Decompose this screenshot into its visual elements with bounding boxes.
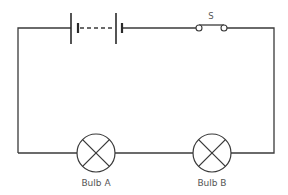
bulb-a: Bulb A [77,134,115,188]
switch-label: S [208,11,213,21]
wire-top-left [18,28,71,153]
battery [71,13,122,44]
bulb-b-label: Bulb B [197,178,226,188]
switch-contact-left [196,25,202,31]
circuit-diagram: S Bulb A Bulb B [0,0,288,195]
wire-switch-to-right [227,28,274,153]
switch: S [196,11,227,31]
bulb-a-label: Bulb A [81,178,111,188]
battery-cell-1 [71,13,78,44]
bulb-b: Bulb B [193,134,231,188]
circuit-wires [18,28,274,153]
battery-cell-2 [116,13,122,44]
switch-contact-right [221,25,227,31]
